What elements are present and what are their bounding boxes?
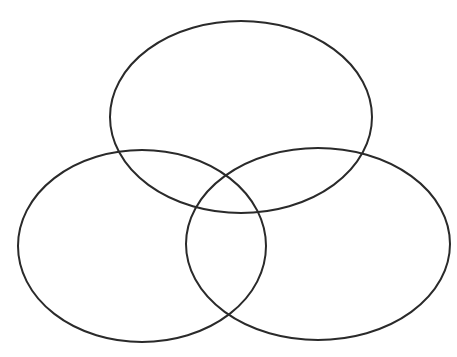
venn-diagram-canvas (0, 0, 457, 357)
set-top-ellipse (110, 21, 372, 213)
venn-diagram (0, 0, 457, 357)
set-right-ellipse (186, 148, 450, 340)
